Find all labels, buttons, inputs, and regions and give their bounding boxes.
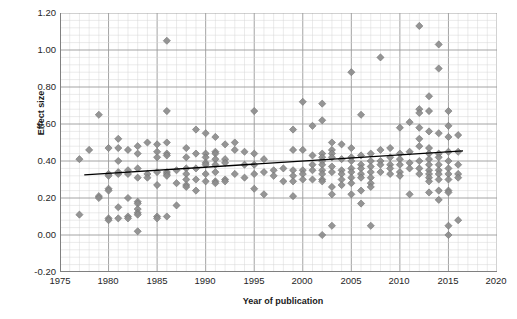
caption-partial (10, 313, 430, 319)
scatter-plot-figure: 1.20 1.00 0.80 0.60 0.40 0.20 0.00 -0.20… (0, 0, 517, 319)
x-tick-label: 2005 (331, 276, 371, 286)
y-tick-label: 0.20 (0, 193, 56, 202)
y-tick-label: 0.80 (0, 82, 56, 91)
y-tick-label: 1.00 (0, 45, 56, 54)
x-tick-label: 2015 (428, 276, 468, 286)
x-tick-label: 2020 (476, 276, 516, 286)
plot-area (60, 13, 497, 272)
x-axis-title: Year of publication (203, 296, 363, 306)
x-tick-label: 1980 (88, 276, 128, 286)
x-tick-label: 2000 (282, 276, 322, 286)
y-tick-label: -0.20 (0, 267, 56, 276)
x-tick-label: 1995 (234, 276, 274, 286)
y-tick-label: 1.20 (0, 8, 56, 17)
y-tick-label: 0.60 (0, 119, 56, 128)
x-tick-label: 1975 (40, 276, 80, 286)
x-tick-label: 2010 (379, 276, 419, 286)
y-tick-label: 0.40 (0, 156, 56, 165)
y-tick-label: 0.00 (0, 230, 56, 239)
trendline (60, 13, 497, 272)
x-tick-label: 1985 (137, 276, 177, 286)
y-axis-title: Effect size (36, 68, 46, 158)
x-tick-label: 1990 (185, 276, 225, 286)
